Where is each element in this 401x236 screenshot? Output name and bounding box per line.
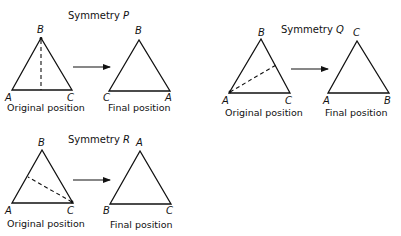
vertex-label-left: A [322, 95, 330, 106]
symmetry-r-final-triangle: A B C Final position [103, 137, 173, 230]
final-position-caption: Final position [108, 102, 171, 113]
final-position-caption: Final position [325, 107, 388, 118]
symmetry-p-final-triangle: B C A Final position [103, 25, 172, 113]
vertex-label-top: C [353, 27, 360, 38]
symmetry-q-panel: Symmetry Q B A C Original position C A B… [221, 24, 391, 118]
symmetry-q-original-triangle: B A C Original position [221, 27, 303, 118]
vertex-label-top: A [135, 137, 143, 148]
vertex-label-top: B [37, 24, 44, 35]
original-position-caption: Original position [7, 102, 85, 113]
symmetry-r-original-triangle: B A C Original position [4, 137, 85, 229]
vertex-label-right: C [67, 205, 74, 216]
vertex-label-top: B [38, 137, 45, 148]
symmetry-q-final-triangle: C A B Final position [322, 27, 391, 118]
original-position-caption: Original position [225, 107, 303, 118]
symmetry-p-title: Symmetry P [68, 10, 130, 21]
final-position-caption: Final position [110, 219, 173, 230]
vertex-label-left: B [103, 205, 110, 216]
vertex-label-right: C [166, 205, 173, 216]
vertex-label-top: B [258, 27, 265, 38]
vertex-label-top: B [135, 25, 142, 36]
symmetry-r-panel: Symmetry R B A C Original position A B C… [4, 134, 173, 230]
original-position-caption: Original position [7, 218, 85, 229]
symmetry-p-original-triangle: B A C Original position [4, 24, 85, 113]
vertex-label-left: A [221, 95, 229, 106]
vertex-label-left: A [4, 205, 12, 216]
vertex-label-right: C [285, 95, 292, 106]
vertex-label-right: B [384, 95, 391, 106]
symmetry-diagram: Symmetry P B A C Original position B C A… [0, 0, 401, 236]
symmetry-q-title: Symmetry Q [281, 24, 344, 35]
symmetry-r-title: Symmetry R [68, 134, 130, 145]
symmetry-p-panel: Symmetry P B A C Original position B C A… [4, 10, 172, 113]
